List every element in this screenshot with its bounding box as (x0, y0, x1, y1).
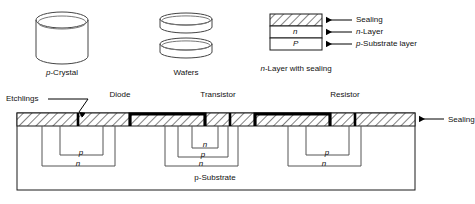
layer-sealing (270, 14, 322, 26)
p-crystal-cylinder (36, 12, 88, 64)
callout-p-substrate-layer: p-Substrate layer (356, 39, 417, 48)
well-label-diode-p: p (79, 148, 83, 157)
sealing-label: Sealing (448, 115, 475, 124)
etchlings-leader-line (48, 99, 88, 112)
well-label-resistor-n: n (322, 159, 326, 168)
device-label-diode: Diode (110, 90, 131, 99)
layer-stack (270, 14, 352, 50)
device-label-transistor: Transistor (200, 90, 235, 99)
well-label-diode-n: n (76, 159, 80, 168)
substrate-label: p-Substrate (194, 173, 235, 182)
layer-stack-caption: n-Layer with sealing (260, 64, 331, 73)
well-label-transistor-n-outer: n (199, 159, 203, 168)
wafer-disc-bottom (160, 38, 212, 58)
well-label-resistor-p: p (325, 148, 329, 157)
wafers-label: Wafers (173, 68, 198, 77)
well-label-transistor-p: p (201, 150, 205, 159)
wafer-disc-top (160, 13, 212, 33)
etchlings-label: Etchlings (6, 94, 38, 103)
well-label-transistor-n-inner: n (203, 140, 207, 149)
layer-n-text: n (293, 27, 297, 36)
device-label-resistor: Resistor (330, 90, 359, 99)
callout-n-layer: n-Layer (356, 27, 383, 36)
callout-sealing: Sealing (356, 15, 383, 24)
layer-p-text: P (293, 39, 298, 48)
p-crystal-label: p-Crystal (46, 68, 78, 77)
